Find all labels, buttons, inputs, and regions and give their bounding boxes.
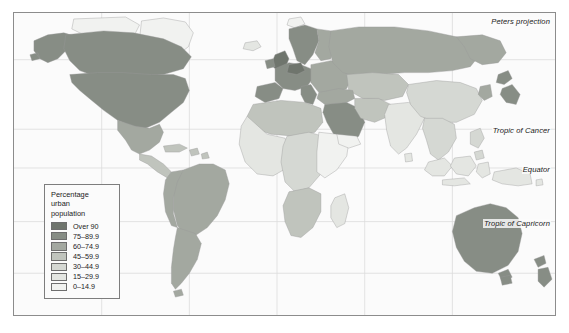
legend-label: 0–14.9 [73, 282, 95, 291]
region-sri-lanka [405, 153, 413, 162]
legend-swatch [51, 222, 67, 230]
map-legend[interactable]: Percentage urban population Over 9075–89… [44, 184, 120, 299]
map-page: Peters projection Tropic of Cancer Equat… [0, 0, 569, 333]
legend-label: 45–59.9 [73, 252, 99, 261]
legend-swatch [51, 232, 67, 240]
region-ireland [265, 59, 275, 69]
legend-swatch [51, 283, 67, 291]
world-map[interactable]: Peters projection Tropic of Cancer Equat… [13, 12, 556, 316]
region-pacific-islands [536, 179, 543, 186]
legend-row[interactable]: 60–74.9 [51, 241, 114, 251]
region-tasmania [500, 275, 512, 285]
legend-label: 30–44.9 [73, 262, 99, 271]
legend-row[interactable]: 75–89.9 [51, 231, 114, 241]
legend-row[interactable]: Over 90 [51, 221, 114, 231]
tropic-of-cancer-label: Tropic of Cancer [492, 126, 551, 135]
legend-label: 75–89.9 [73, 232, 99, 241]
legend-swatch [51, 263, 67, 271]
legend-swatch [51, 242, 67, 250]
legend-row[interactable]: 30–44.9 [51, 262, 114, 272]
legend-swatch [51, 273, 67, 281]
projection-label: Peters projection [490, 17, 551, 26]
legend-label: 60–74.9 [73, 242, 99, 251]
legend-row[interactable]: 45–59.9 [51, 252, 114, 262]
legend-label: Over 90 [73, 222, 99, 231]
tropic-of-capricorn-label: Tropic of Capricorn [483, 219, 551, 228]
legend-title: Percentage urban population [51, 190, 114, 218]
legend-row[interactable]: 0–14.9 [51, 282, 114, 292]
equator-label: Equator [522, 165, 551, 174]
legend-class-list: Over 9075–89.960–74.945–59.930–44.915–29… [51, 221, 114, 292]
legend-swatch [51, 252, 67, 260]
legend-label: 15–29.9 [73, 272, 99, 281]
legend-row[interactable]: 15–29.9 [51, 272, 114, 282]
